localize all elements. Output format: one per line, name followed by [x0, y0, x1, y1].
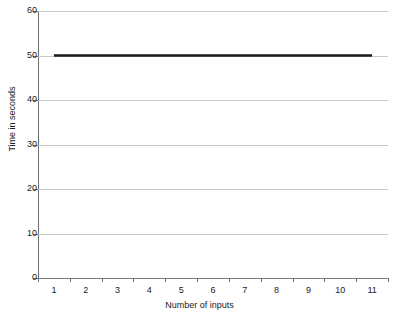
- y-tick-label-30: 30: [0, 140, 37, 149]
- gridline-y-0: [38, 278, 388, 279]
- y-tick-label-10: 10: [0, 229, 37, 238]
- y-tick-label-60: 60: [0, 6, 37, 15]
- x-tick-label-1: 1: [39, 285, 69, 295]
- y-axis-title: Time in seconds: [7, 49, 17, 189]
- x-tick-boundary: [70, 278, 71, 282]
- y-tick-label-0: 0: [0, 273, 37, 282]
- x-tick-label-8: 8: [262, 285, 292, 295]
- x-tick-boundary: [261, 278, 262, 282]
- x-tick-label-2: 2: [71, 285, 101, 295]
- x-tick-label-10: 10: [325, 285, 355, 295]
- x-tick-label-6: 6: [198, 285, 228, 295]
- x-tick-boundary: [133, 278, 134, 282]
- x-tick-boundary: [38, 278, 39, 282]
- y-tick-label-40: 40: [0, 95, 37, 104]
- x-tick-boundary: [165, 278, 166, 282]
- line-chart: 0102030405060 1234567891011 Number of in…: [0, 0, 399, 321]
- x-tick-boundary: [229, 278, 230, 282]
- plot-area: [38, 11, 388, 278]
- y-tick-label-50: 50: [0, 51, 37, 60]
- x-tick-boundary: [102, 278, 103, 282]
- x-tick-label-4: 4: [134, 285, 164, 295]
- x-tick-boundary: [388, 278, 389, 282]
- data-series-line: [38, 11, 388, 278]
- x-tick-label-5: 5: [166, 285, 196, 295]
- x-axis-title: Number of inputs: [0, 300, 399, 310]
- x-tick-boundary: [324, 278, 325, 282]
- x-tick-label-3: 3: [103, 285, 133, 295]
- x-tick-boundary: [293, 278, 294, 282]
- y-tick-label-20: 20: [0, 184, 37, 193]
- x-tick-label-9: 9: [293, 285, 323, 295]
- x-tick-label-7: 7: [230, 285, 260, 295]
- x-tick-label-11: 11: [357, 285, 387, 295]
- x-tick-boundary: [356, 278, 357, 282]
- x-tick-boundary: [197, 278, 198, 282]
